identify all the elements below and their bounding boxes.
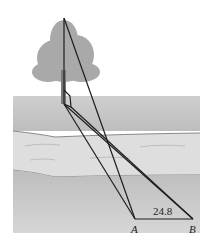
point-a-label: A xyxy=(130,223,138,235)
point-b-label: B xyxy=(189,223,196,235)
near-bank xyxy=(13,170,200,233)
distance-label: 24.8 xyxy=(153,205,173,217)
diagram-canvas: 24.8 A B xyxy=(0,0,208,251)
far-bank xyxy=(13,96,200,131)
